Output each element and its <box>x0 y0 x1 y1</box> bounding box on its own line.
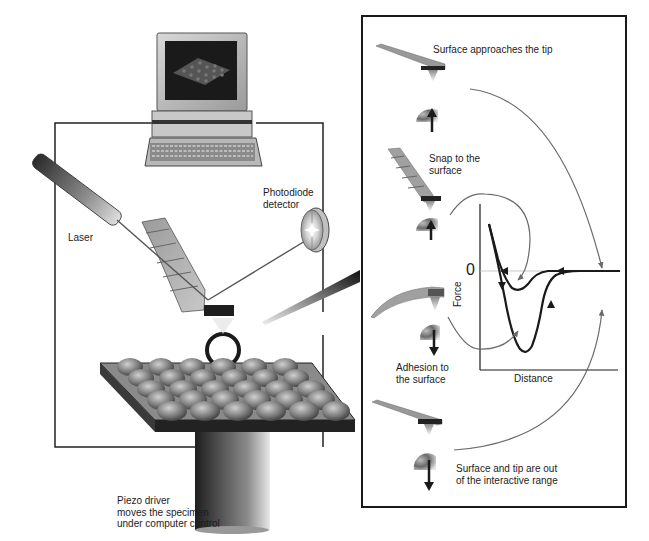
stage-1-label: Surface approaches the tip <box>433 44 553 56</box>
stage-3-label: Adhesion to the surface <box>396 362 449 385</box>
piezo-label: Piezo driver moves the specimen under co… <box>117 495 220 530</box>
stage-4-label: Surface and tip are out of the interacti… <box>456 463 558 486</box>
graph-xlabel: Distance <box>514 373 553 385</box>
computer-monitor <box>152 33 252 137</box>
laser-label: Laser <box>68 232 93 244</box>
photodiode-detector <box>301 208 329 252</box>
graph-zero-label: 0 <box>466 261 475 279</box>
magnifier-beam <box>262 270 360 325</box>
laser <box>30 152 123 228</box>
keyboard <box>145 138 262 166</box>
laser-beam <box>117 220 310 300</box>
stage-2-label: Snap to the surface <box>429 153 480 176</box>
specimen-surface <box>100 358 355 432</box>
afm-diagram <box>0 0 649 541</box>
graph-ylabel: Force <box>452 267 464 307</box>
photodiode-label: Photodiode detector <box>263 187 314 210</box>
stages-panel <box>362 16 626 507</box>
cantilever <box>142 218 234 316</box>
